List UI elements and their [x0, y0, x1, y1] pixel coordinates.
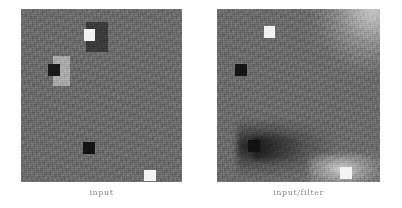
caption-input-filter: input/filter — [217, 188, 380, 197]
noise-texture-layer-b — [217, 9, 380, 182]
white-square-bottom — [340, 167, 352, 179]
white-square-top — [84, 29, 95, 41]
input-image — [21, 9, 182, 182]
caption-input: input — [21, 188, 182, 197]
panel-input-filter — [217, 9, 380, 182]
bright-smear-bottom-right — [309, 155, 380, 182]
dark-smear-center — [237, 121, 333, 177]
black-square-lower-middle — [248, 140, 260, 152]
black-square-upper-left — [235, 64, 247, 76]
noise-texture-layer-a — [21, 9, 182, 182]
white-square-bottom — [144, 170, 156, 181]
noise-texture-layer-a — [217, 9, 380, 182]
white-square-top — [264, 26, 275, 38]
figure-container: input input/filter — [0, 0, 402, 208]
input-filter-image — [217, 9, 380, 182]
panel-input — [21, 9, 182, 182]
light-patch-left — [53, 56, 70, 86]
bright-gradient-top-right — [309, 9, 380, 77]
dark-smear-tail — [253, 137, 327, 159]
black-square-lower-middle — [83, 142, 95, 154]
noise-texture-layer-b — [21, 9, 182, 182]
dark-rectangle-top — [86, 22, 108, 52]
black-square-upper-left — [48, 64, 60, 76]
